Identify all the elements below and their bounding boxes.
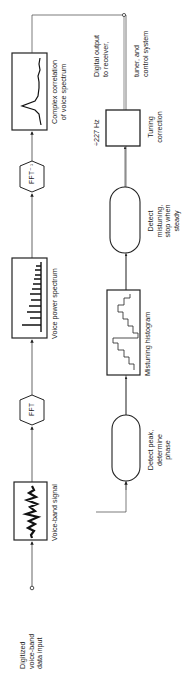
detect-mistuning-label-line: steady xyxy=(173,188,182,254)
output-label-line: to receiver, xyxy=(102,35,111,77)
tuning-top-label: ÷227 Hz xyxy=(93,119,102,146)
detect-mistuning-label: Detect mistuning, stop when steady xyxy=(147,188,181,254)
correlation-block xyxy=(12,53,47,130)
output-terminal-icon xyxy=(122,13,125,16)
output-label-continued: tuner, and control system xyxy=(133,31,150,77)
ifft-label: FFT⁻¹ xyxy=(28,163,36,184)
tuning-label-line: correction xyxy=(156,107,165,147)
block-diagram xyxy=(0,0,188,674)
output-label-line: control system xyxy=(142,31,151,77)
histogram-block xyxy=(107,290,140,375)
voice-band-label: Voice-band signal xyxy=(51,484,60,541)
detect-peak-label-line: phase xyxy=(164,417,173,483)
correlation-label: Complex correlation of voice spectrum xyxy=(51,53,68,131)
power-spectrum-label: Voice power spectrum xyxy=(51,268,60,339)
detect-mistuning-block xyxy=(110,187,140,253)
output-label: Digital output to receiver, xyxy=(93,35,110,77)
detect-peak-block xyxy=(112,415,140,481)
histogram-label: Mistuning histogram xyxy=(144,312,153,376)
tuning-label: Tuning correction xyxy=(147,107,164,147)
fft-label: FFT xyxy=(28,403,35,416)
voice-band-signal-block xyxy=(14,482,47,540)
input-label: Digitized voice-band data input xyxy=(19,634,45,669)
detect-peak-label: Detect peak, determine phase xyxy=(147,417,173,483)
correlation-label-line: of voice spectrum xyxy=(60,53,69,131)
input-terminal-icon xyxy=(30,586,34,590)
power-spectrum-block xyxy=(12,258,47,338)
input-label-line: data input xyxy=(36,634,45,669)
tuning-correction-block xyxy=(106,110,140,146)
